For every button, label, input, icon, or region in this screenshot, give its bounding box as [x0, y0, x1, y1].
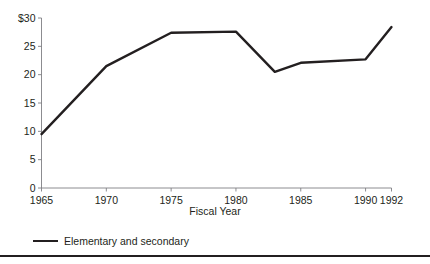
x-tick-label: 1965: [22, 195, 62, 206]
data-series: [42, 27, 392, 134]
axis-lines: [42, 18, 392, 188]
x-axis-title: Fiscal Year: [0, 206, 430, 217]
y-tick-label: 15: [24, 98, 36, 109]
x-tick-label: 1970: [86, 195, 126, 206]
y-tick-label: 25: [24, 41, 36, 52]
x-tick-label: 1992: [372, 195, 412, 206]
x-tick-label: 1975: [151, 195, 191, 206]
y-tick-label: $30: [18, 13, 36, 24]
y-tick-label: 5: [30, 154, 36, 165]
legend-line-swatch: [33, 240, 58, 242]
x-tick-label: 1980: [216, 195, 256, 206]
bottom-divider-rule: [0, 255, 430, 257]
line-chart-plot: [0, 0, 430, 264]
axis-ticks: [38, 18, 392, 192]
y-tick-label: 10: [24, 126, 36, 137]
x-tick-label: 1985: [281, 195, 321, 206]
y-tick-label: 20: [24, 69, 36, 80]
y-tick-label: 0: [30, 183, 36, 194]
chart-figure: 0510152025$30 19651970197519801985199019…: [0, 0, 430, 264]
legend-entry-label: Elementary and secondary: [64, 236, 189, 247]
chart-legend: Elementary and secondary: [33, 233, 189, 249]
